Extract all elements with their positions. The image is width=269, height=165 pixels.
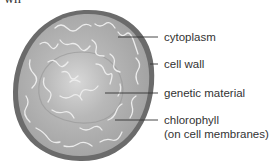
label-chlorophyll: chlorophyll — [164, 114, 219, 127]
label-cell-wall: cell wall — [164, 58, 204, 71]
label-chlorophyll-subtext: (on cell membranes) — [164, 128, 269, 141]
label-genetic-material: genetic material — [164, 87, 245, 100]
label-cytoplasm: cytoplasm — [164, 31, 216, 44]
